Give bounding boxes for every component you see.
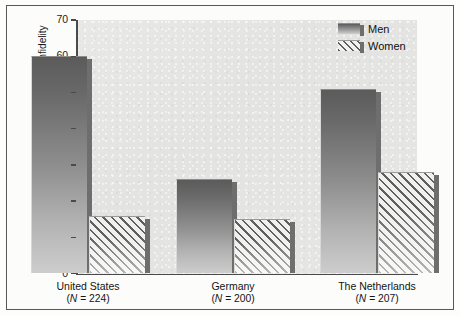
x-axis-label-1: Germany(N = 200) — [163, 280, 303, 305]
bar-men-2 — [320, 89, 376, 274]
y-tick-label: 70 — [57, 14, 68, 25]
bar-women-2 — [378, 172, 434, 273]
bar-men-0 — [31, 56, 87, 273]
women-swatch — [338, 40, 360, 51]
y-tick-mark — [71, 92, 76, 93]
men-swatch-shadow — [360, 25, 364, 36]
bar-women-1-shadow — [290, 222, 295, 273]
x-axis-label-name: United States — [18, 280, 158, 293]
men-swatch — [338, 23, 360, 34]
x-axis-line — [76, 274, 418, 276]
y-tick-mark — [71, 128, 76, 129]
x-axis-label-sample-size: (N = 200) — [163, 293, 303, 306]
x-axis-label-name: The Netherlands — [307, 280, 447, 293]
y-tick-mark — [71, 19, 76, 20]
bar-women-0 — [89, 216, 145, 274]
legend-item-women: Women — [338, 39, 412, 54]
y-tick-mark — [71, 164, 76, 165]
chart-figure: 010203040506070 Percentage reporting mor… — [0, 0, 460, 316]
legend-label: Women — [368, 39, 406, 53]
y-tick-mark — [71, 237, 76, 238]
y-tick-mark — [71, 200, 76, 201]
bar-men-1 — [176, 179, 232, 273]
bar-women-1 — [234, 219, 290, 273]
legend-item-men: Men — [338, 22, 412, 37]
x-axis-label-2: The Netherlands(N = 207) — [307, 280, 447, 305]
x-axis-label-0: United States(N = 224) — [18, 280, 158, 305]
women-swatch-shadow — [360, 42, 364, 53]
bar-women-2-shadow — [434, 175, 439, 273]
x-axis-label-sample-size: (N = 224) — [18, 293, 158, 306]
x-axis-label-sample-size: (N = 207) — [307, 293, 447, 306]
x-axis-label-name: Germany — [163, 280, 303, 293]
bar-women-0-shadow — [145, 219, 150, 274]
legend: MenWomen — [338, 22, 412, 56]
y-tick-mark — [71, 273, 76, 274]
y-tick-mark — [71, 56, 76, 57]
legend-label: Men — [368, 22, 389, 36]
